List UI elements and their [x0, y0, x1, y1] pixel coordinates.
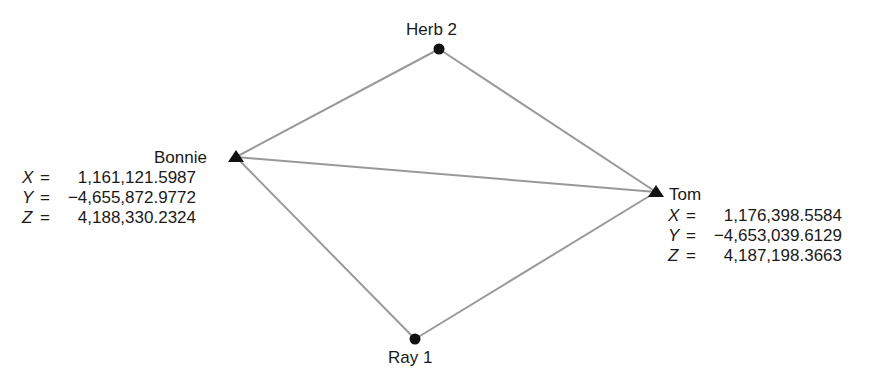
- bonnie-z-row: Z = 4,188,330.2324: [22, 208, 196, 228]
- bonnie-coordinates: X = 1,161,121.5987 Y = −4,655,872.9772 Z…: [22, 168, 196, 228]
- bonnie-marker-icon: [228, 150, 244, 162]
- equals-sign: =: [686, 206, 700, 226]
- z-label: Z: [668, 246, 686, 266]
- equals-sign: =: [40, 188, 54, 208]
- bonnie-x-value: 1,161,121.5987: [54, 168, 196, 188]
- equals-sign: =: [686, 246, 700, 266]
- bonnie-z-value: 4,188,330.2324: [54, 208, 196, 228]
- edge-bonnie-ray1: [236, 157, 415, 339]
- y-label: Y: [668, 226, 686, 246]
- station-label-bonnie: Bonnie: [154, 148, 207, 168]
- equals-sign: =: [686, 226, 700, 246]
- tom-y-row: Y = −4,653,039.6129: [668, 226, 842, 246]
- equals-sign: =: [40, 168, 54, 188]
- ray1-marker-icon: [410, 334, 421, 345]
- edge-herb2-bonnie: [236, 49, 439, 157]
- edge-herb2-tom: [439, 49, 656, 192]
- equals-sign: =: [40, 208, 54, 228]
- bonnie-x-row: X = 1,161,121.5987: [22, 168, 196, 188]
- z-label: Z: [22, 208, 40, 228]
- tom-z-row: Z = 4,187,198.3663: [668, 246, 842, 266]
- tom-z-value: 4,187,198.3663: [700, 246, 842, 266]
- tom-coordinates: X = 1,176,398.5584 Y = −4,653,039.6129 Z…: [668, 206, 842, 266]
- tom-x-row: X = 1,176,398.5584: [668, 206, 842, 226]
- station-label-tom: Tom: [669, 185, 701, 205]
- bonnie-y-row: Y = −4,655,872.9772: [22, 188, 196, 208]
- edge-tom-ray1: [415, 192, 656, 339]
- edge-bonnie-tom: [236, 157, 656, 192]
- x-label: X: [22, 168, 40, 188]
- herb2-marker-icon: [434, 44, 445, 55]
- station-label-herb2: Herb 2: [406, 20, 457, 40]
- station-label-ray1: Ray 1: [388, 348, 432, 368]
- x-label: X: [668, 206, 686, 226]
- tom-x-value: 1,176,398.5584: [700, 206, 842, 226]
- bonnie-y-value: −4,655,872.9772: [54, 188, 196, 208]
- y-label: Y: [22, 188, 40, 208]
- tom-y-value: −4,653,039.6129: [700, 226, 842, 246]
